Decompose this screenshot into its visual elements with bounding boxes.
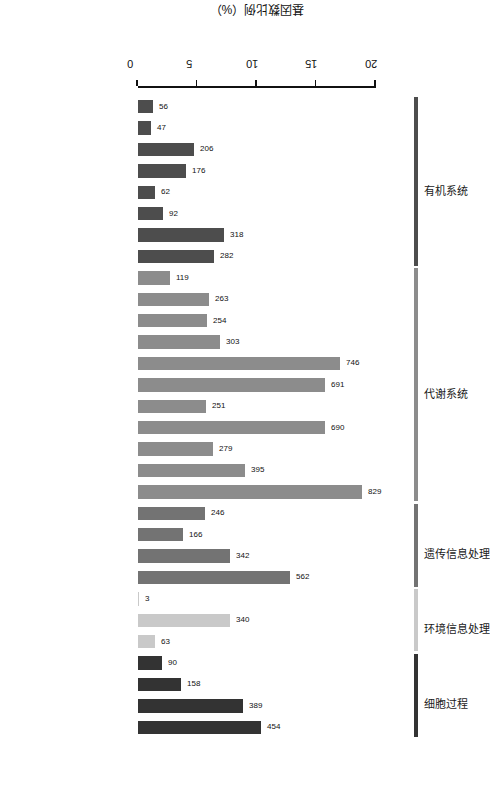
bar-value-label: 282 (220, 251, 233, 260)
bar-rect (138, 464, 245, 477)
bar-rect (138, 614, 230, 627)
axis-tick-label-10: 10 (246, 58, 270, 70)
bar-rect (138, 678, 181, 691)
bar-rect (138, 186, 155, 199)
axis-tick-10 (256, 80, 258, 86)
bar-rect (138, 335, 220, 348)
axis-tick-15 (315, 80, 317, 86)
bar-23: 562 (138, 571, 290, 584)
bar-value-label: 206 (200, 144, 213, 153)
axis-tick-label-0: 0 (127, 58, 151, 70)
bar-6: 92 (138, 207, 163, 220)
bar-7: 318 (138, 228, 224, 241)
bar-value-label: 279 (219, 444, 232, 453)
bar-value-label: 158 (187, 679, 200, 688)
bar-rect (138, 121, 151, 134)
bar-rect (138, 207, 163, 220)
bar-20: 246 (138, 507, 205, 520)
bar-26: 63 (138, 635, 155, 648)
bar-25: 340 (138, 614, 230, 627)
bar-rect (138, 699, 243, 712)
bar-value-label: 119 (176, 273, 189, 282)
bar-value-label: 166 (189, 530, 202, 539)
bar-value-label: 340 (236, 615, 249, 624)
value-axis-line (138, 86, 376, 88)
bar-value-label: 92 (169, 209, 178, 218)
bar-rect (138, 635, 155, 648)
bar-value-label: 454 (267, 722, 280, 731)
bar-27: 90 (138, 656, 162, 669)
bar-rect (138, 228, 224, 241)
bar-4: 176 (138, 164, 186, 177)
bar-rect (138, 100, 153, 113)
bar-value-label: 303 (226, 337, 239, 346)
bar-rect (138, 721, 261, 734)
bar-rect (138, 571, 290, 584)
bar-11: 254 (138, 314, 207, 327)
bar-value-label: 318 (230, 230, 243, 239)
group-label-2: 代谢系统 (424, 385, 468, 401)
bar-rect (138, 357, 340, 370)
bar-value-label: 90 (168, 658, 177, 667)
bar-value-label: 263 (215, 294, 228, 303)
bar-value-label: 63 (161, 637, 170, 646)
axis-tick-0 (137, 80, 139, 86)
group-ribbon-3 (414, 504, 418, 587)
bar-15: 251 (138, 400, 206, 413)
bar-value-label: 47 (157, 123, 166, 132)
bar-rect (138, 164, 186, 177)
bar-rect (138, 378, 325, 391)
bar-value-label: 56 (159, 102, 168, 111)
bar-rect (138, 400, 206, 413)
axis-tick-5 (196, 80, 198, 86)
group-ribbon-4 (414, 589, 418, 651)
bar-8: 282 (138, 250, 214, 263)
bar-value-label: 62 (161, 187, 170, 196)
bar-value-label: 691 (331, 380, 344, 389)
bar-5: 62 (138, 186, 155, 199)
bar-14: 691 (138, 378, 325, 391)
bar-28: 158 (138, 678, 181, 691)
group-label-5: 细胞过程 (424, 695, 468, 711)
bar-17: 279 (138, 442, 213, 455)
bar-rect (138, 421, 325, 434)
bar-value-label: 829 (368, 487, 381, 496)
group-ribbon-2 (414, 268, 418, 501)
bar-rect (138, 485, 362, 498)
bar-24: 3 (138, 592, 139, 605)
bar-rect (138, 143, 194, 156)
bar-rect (138, 442, 213, 455)
bar-3: 206 (138, 143, 194, 156)
bar-value-label: 176 (192, 166, 205, 175)
group-ribbon-strip: 有机系统代谢系统遗传信息处理环境信息处理细胞过程 (413, 96, 418, 738)
axis-tick-label-5: 5 (187, 58, 211, 70)
bar-rect (138, 528, 183, 541)
bar-rect (138, 314, 207, 327)
bar-13: 746 (138, 357, 340, 370)
bar-value-label: 389 (249, 701, 262, 710)
bar-value-label: 342 (236, 551, 249, 560)
bar-22: 342 (138, 549, 230, 562)
bar-9: 119 (138, 271, 170, 284)
bar-19: 829 (138, 485, 362, 498)
bar-12: 303 (138, 335, 220, 348)
bar-rect (138, 250, 214, 263)
bar-value-label: 3 (145, 594, 149, 603)
bar-value-label: 395 (251, 465, 264, 474)
plot-area: 05101520 基因数比例（%） 5647206176629231828211… (138, 96, 376, 738)
bar-value-label: 254 (213, 316, 226, 325)
bar-21: 166 (138, 528, 183, 541)
bar-10: 263 (138, 293, 209, 306)
bar-30: 454 (138, 721, 261, 734)
group-ribbon-1 (414, 97, 418, 266)
axis-tick-label-15: 15 (306, 58, 330, 70)
axis-tick-20 (375, 80, 377, 86)
bar-series: 5647206176629231828211926325430374669125… (138, 96, 376, 738)
bar-rect (138, 656, 162, 669)
group-label-1: 有机系统 (424, 182, 468, 198)
bar-rect (138, 271, 170, 284)
bar-rect (138, 592, 139, 605)
bar-18: 395 (138, 464, 245, 477)
